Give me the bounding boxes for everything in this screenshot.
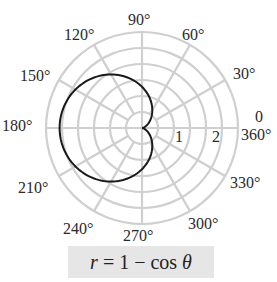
caption-theta: θ [182, 251, 192, 273]
caption-r: r [90, 251, 98, 273]
angle-label-300: 300° [188, 216, 218, 232]
angle-label-270: 270° [123, 228, 153, 244]
angle-label-360: 360° [241, 127, 271, 143]
angle-label-210: 210° [18, 180, 48, 196]
equation-caption: r = 1 − cos θ [68, 246, 214, 278]
angle-label-180: 180° [2, 118, 32, 134]
caption-middle: = 1 − cos [98, 251, 182, 273]
angle-label-330: 330° [230, 175, 260, 191]
angle-label-30: 30° [233, 66, 255, 82]
angle-label-90: 90° [128, 12, 150, 28]
angle-label-0: 0 [255, 109, 263, 125]
angle-label-240: 240° [63, 221, 93, 237]
radial-label-1: 1 [175, 129, 183, 145]
angle-label-120: 120° [64, 27, 94, 43]
radial-label-2: 2 [212, 129, 220, 145]
angle-label-60: 60° [182, 27, 204, 43]
angle-label-150: 150° [20, 68, 50, 84]
